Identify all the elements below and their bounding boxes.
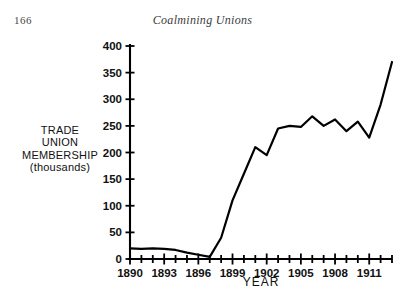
x-axis-title: YEAR [130, 275, 392, 289]
y-axis-tick-label: 0 [116, 253, 122, 265]
y-axis-title: TRADE UNION MEMBERSHIP (thousands) [8, 124, 112, 174]
y-axis-tick-label: 350 [103, 67, 122, 79]
y-axis-tick-label: 400 [103, 40, 122, 52]
data-series-line [130, 62, 392, 257]
y-axis-tick-label: 50 [109, 226, 122, 238]
y-axis-tick-label: 100 [103, 200, 122, 212]
y-axis-tick-label: 300 [103, 93, 122, 105]
line-chart-figure: 0501001502002503003504001890189318961899… [0, 0, 405, 305]
page-canvas: 166 Coalmining Unions 050100150200250300… [0, 0, 405, 305]
y-axis-tick-label: 150 [103, 173, 122, 185]
